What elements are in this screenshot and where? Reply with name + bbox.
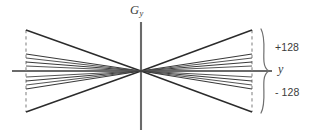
fan-diagram-svg (0, 0, 309, 135)
lower-bound-label: - 128 (275, 87, 299, 98)
vertical-axis-label-main: G (130, 3, 139, 17)
vertical-axis-label: Gy (130, 4, 143, 18)
vertical-axis-label-subscript: y (139, 8, 143, 18)
upper-bound-label: +128 (275, 42, 299, 53)
fan-line-outer-lower-left (26, 71, 141, 112)
fan-line-outer-lower-right (141, 71, 252, 112)
horizontal-axis-label: y (278, 63, 283, 75)
figure-container: Gy y +128 - 128 (0, 0, 309, 135)
